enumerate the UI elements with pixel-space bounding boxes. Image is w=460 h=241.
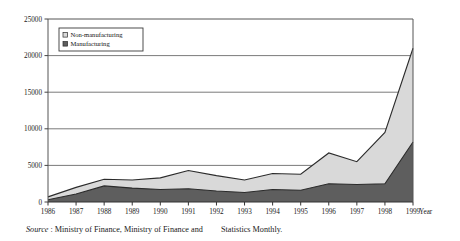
y-axis-tick-label: 15000	[24, 89, 42, 97]
source-note: Source : Ministry of Finance, Ministry o…	[26, 225, 282, 234]
x-axis-tick-label: 1993	[237, 208, 252, 216]
y-axis-ticks: 0500010000150002000025000	[24, 16, 48, 207]
x-axis-tick-label: 1987	[69, 208, 84, 216]
source-text-part2: Statistics Monthly.	[221, 225, 282, 234]
y-axis-tick-label: 25000	[24, 16, 42, 24]
source-text-part1: Ministry of Finance, Ministry of Finance…	[55, 225, 203, 234]
x-axis-tick-label: 1988	[97, 208, 112, 216]
legend-label-non-manufacturing: Non-manufacturing	[71, 31, 124, 38]
y-axis-tick-label: 10000	[24, 125, 42, 133]
legend-swatch-non-manufacturing	[63, 33, 68, 38]
x-axis-tick-label: 1995	[294, 208, 309, 216]
x-axis-ticks: 1986198719881989199019911992199319941995…	[41, 202, 421, 216]
stacked-area-chart: 0500010000150002000025000 19861987198819…	[0, 0, 460, 241]
x-axis-tick-label: 1997	[350, 208, 365, 216]
x-axis-tick-label: 1992	[209, 208, 224, 216]
figure-container: 0500010000150002000025000 19861987198819…	[0, 0, 460, 241]
x-axis-tick-label: 1989	[125, 208, 140, 216]
source-label: Source	[26, 225, 48, 234]
y-axis-tick-label: 5000	[28, 162, 43, 170]
y-axis-tick-label: 0	[38, 199, 42, 207]
x-axis-tick-label: 1994	[265, 208, 280, 216]
legend-label-manufacturing: Manufacturing	[71, 40, 111, 47]
legend: Non-manufacturing Manufacturing	[59, 28, 143, 51]
x-axis-tick-label: 1991	[181, 208, 196, 216]
source-separator: :	[50, 225, 52, 234]
x-axis-title: Year	[419, 208, 433, 216]
x-axis-tick-label: 1996	[322, 208, 337, 216]
legend-swatch-manufacturing	[63, 42, 68, 47]
y-axis-tick-label: 20000	[24, 52, 42, 60]
x-axis-tick-label: 1986	[41, 208, 56, 216]
x-axis-tick-label: 1998	[378, 208, 393, 216]
x-axis-tick-label: 1990	[153, 208, 168, 216]
